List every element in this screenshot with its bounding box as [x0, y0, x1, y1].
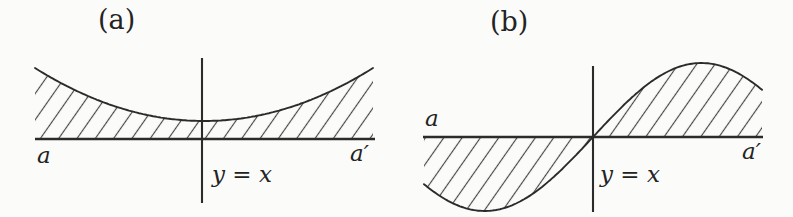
- figure-canvas: (a) (b) a a′ y = x a a′ y = x: [0, 0, 793, 217]
- panel-a-right-axis-label: a′: [350, 142, 369, 165]
- panel-b-caption: (b): [490, 8, 528, 35]
- panel-b-right-axis-label: a′: [742, 140, 761, 163]
- panel-b-vline-label: y = x: [600, 163, 660, 186]
- panel-a-caption: (a): [98, 6, 135, 33]
- panel-a-graph: [35, 58, 375, 203]
- panel-b-graph: [423, 63, 763, 212]
- panel-a-hatched-region: [35, 68, 373, 139]
- panel-b-left-axis-label: a: [425, 107, 439, 130]
- panel-a-left-axis-label: a: [37, 144, 51, 167]
- panel-a-vline-label: y = x: [212, 163, 272, 186]
